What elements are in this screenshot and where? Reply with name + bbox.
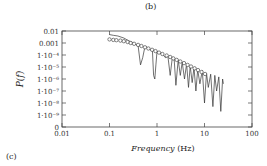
data-point-circle: [186, 63, 189, 66]
data-point-circle: [154, 49, 157, 52]
y-tick-label: 0: [55, 124, 59, 132]
plot-frame: [62, 31, 252, 127]
y-tick-label: 1·10⁻⁵: [37, 64, 59, 72]
data-point-circle: [172, 57, 175, 60]
data-point-circle: [143, 46, 146, 49]
data-point-circle: [147, 47, 150, 50]
axis-ticks: 0.010.11101000.010.0011·10⁻⁴1·10⁻⁵1·10⁻⁶…: [37, 28, 259, 139]
panel-label-c: (c): [6, 152, 17, 161]
data-point-circle: [175, 58, 178, 61]
data-point-circle: [161, 52, 164, 55]
data-point-circle: [150, 48, 153, 51]
data-point-circle: [140, 44, 143, 47]
data-point-circle: [115, 39, 118, 42]
y-tick-label: 1·10⁻⁴: [37, 52, 59, 60]
x-tick-label: 0.1: [104, 130, 115, 138]
plot-border: [62, 31, 252, 127]
data-point-circle: [193, 67, 196, 70]
binned-spectrum-circles: [108, 38, 207, 76]
x-tick-label: 10: [200, 130, 209, 138]
y-tick-label: 1·10⁻⁶: [37, 76, 59, 84]
data-point-circle: [157, 51, 160, 54]
data-point-circle: [196, 68, 199, 71]
y-tick-label: 1·10⁻⁸: [37, 100, 59, 108]
x-axis-label: Frequency (Hz): [118, 144, 208, 153]
y-tick-label: 0.01: [43, 28, 59, 36]
y-tick-label: 0.001: [39, 40, 59, 48]
data-point-circle: [200, 70, 203, 73]
data-point-circle: [189, 65, 192, 68]
data-point-circle: [122, 40, 125, 43]
x-tick-label: 1: [155, 130, 159, 138]
data-point-circle: [108, 38, 111, 41]
x-axis-label-variable: Frequency: [131, 144, 174, 153]
y-axis-label: P(f): [15, 67, 25, 91]
data-point-circle: [179, 60, 182, 63]
data-point-circle: [136, 43, 139, 46]
y-tick-label: 1·10⁻⁹: [37, 112, 59, 120]
psd-chart: 0.010.11101000.010.0011·10⁻⁴1·10⁻⁵1·10⁻⁶…: [0, 0, 267, 166]
data-point-circle: [132, 42, 135, 45]
x-axis-label-unit: (Hz): [177, 144, 194, 153]
data-point-circle: [182, 61, 185, 64]
x-tick-label: 100: [245, 130, 258, 138]
data-point-circle: [203, 72, 206, 75]
data-point-circle: [129, 41, 132, 44]
data-point-circle: [119, 39, 122, 42]
data-point-circle: [165, 54, 168, 57]
y-tick-label: 1·10⁻⁷: [37, 88, 59, 96]
